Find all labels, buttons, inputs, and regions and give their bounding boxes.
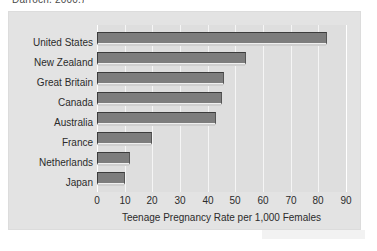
x-tick-label: 60 bbox=[257, 195, 268, 206]
category-label: Great Britain bbox=[15, 77, 97, 88]
x-tick-label: 80 bbox=[312, 195, 323, 206]
x-tick-label: 50 bbox=[229, 195, 240, 206]
plot-area bbox=[97, 25, 346, 192]
category-axis-labels: United States New Zealand Great Britain … bbox=[15, 32, 97, 192]
bar-united-states bbox=[97, 32, 327, 45]
x-tick-label: 0 bbox=[94, 195, 100, 206]
category-label: Canada bbox=[15, 97, 97, 108]
category-label: United States bbox=[15, 37, 97, 48]
bar-netherlands bbox=[97, 152, 130, 165]
bar-canada bbox=[97, 92, 222, 105]
x-tick-label: 70 bbox=[285, 195, 296, 206]
chart-figure: United States New Zealand Great Britain … bbox=[8, 11, 361, 230]
x-tick-label: 90 bbox=[340, 195, 351, 206]
footer-artifact bbox=[262, 230, 365, 239]
table-row bbox=[97, 112, 346, 125]
x-tick-label: 40 bbox=[202, 195, 213, 206]
category-label: New Zealand bbox=[15, 57, 97, 68]
x-axis-title: Teenage Pregnancy Rate per 1,000 Females bbox=[97, 212, 346, 223]
table-row bbox=[97, 92, 346, 105]
table-row bbox=[97, 32, 346, 45]
x-tick-label: 20 bbox=[146, 195, 157, 206]
x-tick-label: 30 bbox=[174, 195, 185, 206]
category-label: Australia bbox=[15, 117, 97, 128]
bar-new-zealand bbox=[97, 52, 246, 65]
bar-france bbox=[97, 132, 152, 145]
citation-text: Darroch, 2000.) bbox=[12, 0, 84, 3]
bar-great-britain bbox=[97, 72, 224, 85]
table-row bbox=[97, 152, 346, 165]
table-row bbox=[97, 172, 346, 185]
x-axis-ticks: 0102030405060708090 bbox=[97, 195, 346, 209]
bar-series bbox=[97, 25, 346, 192]
table-row bbox=[97, 72, 346, 85]
x-tick-label: 10 bbox=[119, 195, 130, 206]
table-row bbox=[97, 52, 346, 65]
gridline bbox=[346, 25, 347, 192]
table-row bbox=[97, 132, 346, 145]
category-label: Netherlands bbox=[15, 157, 97, 168]
bar-australia bbox=[97, 112, 216, 125]
bar-japan bbox=[97, 172, 125, 185]
category-label: Japan bbox=[15, 177, 97, 188]
category-label: France bbox=[15, 137, 97, 148]
